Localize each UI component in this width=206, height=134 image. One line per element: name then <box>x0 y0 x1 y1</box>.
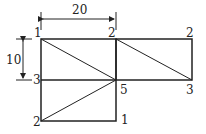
dimension-label-horizontal: 20 <box>72 4 87 16</box>
node-label-top-right: 2 <box>186 27 194 39</box>
node-label-middle-right: 3 <box>186 84 194 96</box>
dimension-label-vertical: 10 <box>6 54 21 66</box>
mesh-diagram <box>0 0 206 134</box>
node-label-bottom-left: 2 <box>33 116 41 128</box>
node-label-top-left: 1 <box>34 27 42 39</box>
mesh-elements <box>41 39 192 121</box>
node-label-middle-center: 5 <box>120 84 128 96</box>
node-label-top-middle: 2 <box>108 27 116 39</box>
node-label-middle-left: 3 <box>33 74 41 86</box>
node-label-bottom-middle: 1 <box>121 114 129 126</box>
